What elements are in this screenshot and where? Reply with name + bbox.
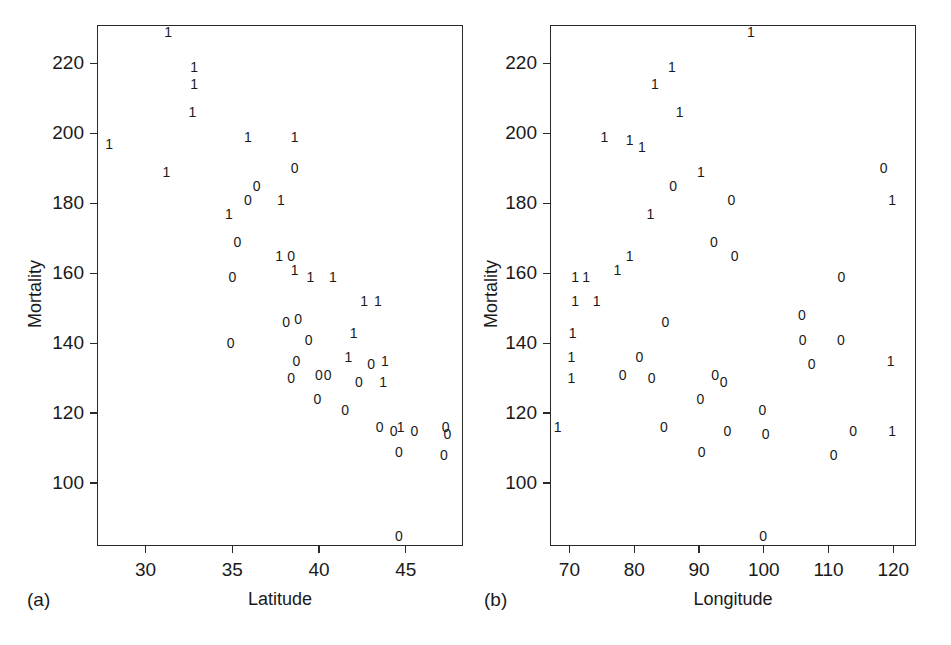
data-point-1: 1 <box>273 249 285 263</box>
data-point-0: 0 <box>232 235 244 249</box>
data-point-1: 1 <box>275 193 287 207</box>
data-point-0: 0 <box>667 179 679 193</box>
plot-frame-latitude <box>97 25 463 546</box>
data-point-0: 0 <box>225 336 237 350</box>
data-point-0: 0 <box>303 333 315 347</box>
y-tick-label: 140 <box>476 333 543 352</box>
x-tick-label: 35 <box>202 560 262 579</box>
y-tick-label: 220 <box>476 53 543 72</box>
y-tick-mark <box>90 273 97 274</box>
data-point-0: 0 <box>633 350 645 364</box>
data-point-0: 0 <box>311 392 323 406</box>
data-point-0: 0 <box>797 333 809 347</box>
y-tick-mark <box>543 412 550 413</box>
y-tick-label: 100 <box>0 473 90 492</box>
x-tick-mark <box>232 546 233 553</box>
y-tick-mark <box>543 343 550 344</box>
y-tick-mark <box>543 63 550 64</box>
data-point-0: 0 <box>659 315 671 329</box>
data-point-0: 0 <box>646 371 658 385</box>
x-tick-mark <box>698 546 699 553</box>
data-point-1: 1 <box>186 105 198 119</box>
data-point-0: 0 <box>285 371 297 385</box>
data-point-0: 0 <box>658 420 670 434</box>
y-tick-label: 140 <box>0 333 90 352</box>
y-tick-label: 120 <box>0 403 90 422</box>
y-tick-label: 220 <box>0 53 90 72</box>
x-tick-label: 120 <box>863 560 923 579</box>
panel-tag-a: (a) <box>27 590 50 609</box>
y-tick-mark <box>543 133 550 134</box>
y-tick-label: 200 <box>0 123 90 142</box>
data-point-0: 0 <box>339 403 351 417</box>
data-point-0: 0 <box>806 357 818 371</box>
data-point-0: 0 <box>322 368 334 382</box>
data-point-1: 1 <box>580 270 592 284</box>
data-point-0: 0 <box>721 424 733 438</box>
data-point-1: 1 <box>372 294 384 308</box>
data-point-1: 1 <box>103 137 115 151</box>
panel-tag-b: (b) <box>484 590 507 609</box>
data-point-0: 0 <box>353 375 365 389</box>
data-point-1: 1 <box>358 294 370 308</box>
data-point-0: 0 <box>828 448 840 462</box>
x-tick-mark <box>145 546 146 553</box>
y-tick-label: 160 <box>0 263 90 282</box>
data-point-0: 0 <box>617 368 629 382</box>
data-point-0: 0 <box>694 392 706 406</box>
data-point-0: 0 <box>835 333 847 347</box>
data-point-1: 1 <box>885 354 897 368</box>
data-point-0: 0 <box>393 529 405 543</box>
panel-longitude: 100120140160180200220708090100110120 111… <box>476 0 951 645</box>
panel-latitude: 10012014016018020022030354045 1111111100… <box>0 0 476 645</box>
x-tick-mark <box>634 546 635 553</box>
data-point-0: 0 <box>251 179 263 193</box>
data-point-0: 0 <box>718 375 730 389</box>
data-point-1: 1 <box>377 375 389 389</box>
data-point-1: 1 <box>886 424 898 438</box>
data-point-0: 0 <box>365 357 377 371</box>
data-point-1: 1 <box>327 270 339 284</box>
data-point-1: 1 <box>289 263 301 277</box>
data-point-1: 1 <box>188 77 200 91</box>
data-point-1: 1 <box>379 354 391 368</box>
data-point-1: 1 <box>745 25 757 39</box>
data-point-0: 0 <box>280 315 292 329</box>
x-axis-title-longitude: Longitude <box>643 590 823 608</box>
x-tick-mark <box>318 546 319 553</box>
data-point-0: 0 <box>226 270 238 284</box>
data-point-1: 1 <box>348 326 360 340</box>
y-tick-label: 100 <box>476 473 543 492</box>
x-tick-label: 80 <box>604 560 664 579</box>
y-axis-title-latitude-panel: Mortality <box>26 259 44 327</box>
x-tick-mark <box>569 546 570 553</box>
x-tick-label: 40 <box>289 560 349 579</box>
data-point-1: 1 <box>886 193 898 207</box>
data-point-1: 1 <box>598 130 610 144</box>
figure-scatter-pair: 10012014016018020022030354045 1111111100… <box>0 0 951 645</box>
data-point-1: 1 <box>567 326 579 340</box>
data-point-0: 0 <box>408 424 420 438</box>
y-tick-mark <box>90 412 97 413</box>
x-tick-mark <box>828 546 829 553</box>
data-point-1: 1 <box>666 60 678 74</box>
x-tick-mark <box>763 546 764 553</box>
data-point-0: 0 <box>438 448 450 462</box>
data-point-1: 1 <box>343 350 355 364</box>
data-point-1: 1 <box>223 207 235 221</box>
data-point-0: 0 <box>374 420 386 434</box>
x-tick-label: 45 <box>376 560 436 579</box>
y-tick-mark <box>543 203 550 204</box>
data-point-0: 0 <box>393 445 405 459</box>
data-point-1: 1 <box>695 165 707 179</box>
x-tick-mark <box>893 546 894 553</box>
data-point-0: 0 <box>696 445 708 459</box>
x-axis-title-latitude: Latitude <box>190 590 370 608</box>
data-point-0: 0 <box>289 161 301 175</box>
data-point-1: 1 <box>565 350 577 364</box>
x-tick-label: 70 <box>539 560 599 579</box>
y-tick-label: 180 <box>476 193 543 212</box>
data-point-0: 0 <box>729 249 741 263</box>
x-tick-label: 100 <box>734 560 794 579</box>
data-point-0: 0 <box>836 270 848 284</box>
